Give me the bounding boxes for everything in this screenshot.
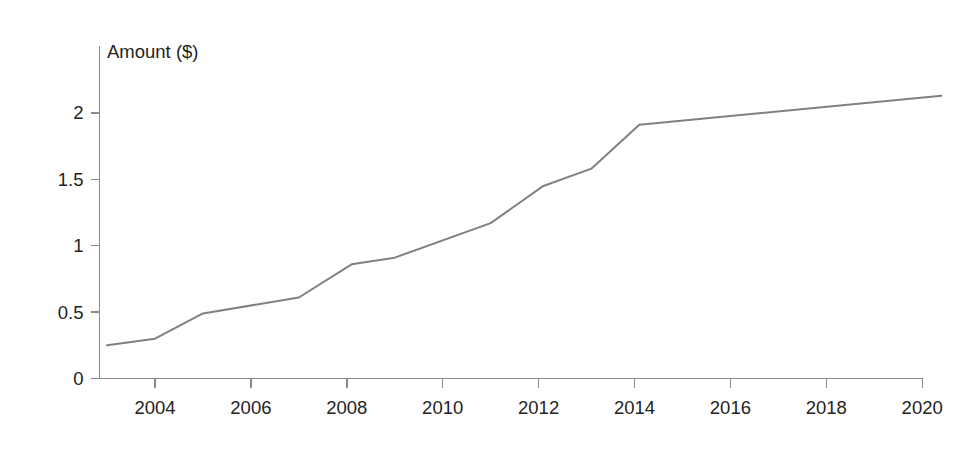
y-axis-label: Amount ($) [107,41,199,62]
x-axis-tick-label: 2012 [518,397,559,418]
x-axis-tick-label: 2020 [902,397,943,418]
y-axis-tick-label: 0.5 [58,302,84,323]
y-axis-tick-label: 1.5 [58,169,84,190]
x-axis-tick-label: 2018 [806,397,847,418]
y-axis: 00.511.52 [58,46,100,389]
x-axis-tick-label: 2016 [710,397,751,418]
x-axis-tick-labels: 200420062008201020122014201620182020 [134,397,942,418]
data-line-amount [107,96,941,346]
x-axis-tick-label: 2010 [422,397,463,418]
x-axis-tick-label: 2014 [614,397,655,418]
x-axis-ticks [155,379,922,388]
y-axis-ticks [91,113,100,379]
data-series-group [107,96,941,346]
x-axis-tick-label: 2008 [326,397,367,418]
y-axis-tick-label: 0 [73,368,83,389]
y-axis-tick-label: 1 [73,235,83,256]
y-axis-tick-label: 2 [73,102,83,123]
x-axis-tick-label: 2004 [134,397,175,418]
x-axis-tick-label: 2006 [230,397,271,418]
x-axis: 200420062008201020122014201620182020 [99,379,943,418]
y-axis-tick-labels: 00.511.52 [58,102,84,389]
chart-canvas: 00.511.52 200420062008201020122014201620… [0,0,972,458]
line-chart: 00.511.52 200420062008201020122014201620… [0,0,972,458]
